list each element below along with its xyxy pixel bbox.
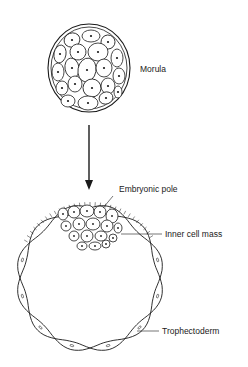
cell-nucleus — [57, 71, 59, 73]
hatch-line — [27, 236, 30, 238]
hatch-line — [119, 209, 121, 213]
hatch-line — [54, 211, 56, 215]
cell-nucleus — [100, 235, 102, 237]
cell-nucleus — [111, 215, 113, 217]
arrow-head-icon — [85, 180, 93, 190]
cell-nucleus — [71, 67, 73, 69]
cell-nucleus — [90, 35, 92, 37]
hatch-line — [45, 217, 47, 220]
hatch-line — [50, 214, 52, 217]
cell-nucleus — [106, 225, 108, 227]
hatch-line — [132, 217, 134, 220]
cell-nucleus — [118, 75, 120, 77]
morula-cells — [52, 30, 125, 110]
cell-nucleus — [73, 235, 75, 237]
cell-nucleus — [107, 41, 109, 43]
blastocyst — [18, 202, 163, 350]
morula — [48, 24, 130, 112]
trophectoderm-nucleus — [156, 258, 159, 262]
cell-nucleus — [86, 210, 88, 212]
trophectoderm-nucleus — [38, 325, 42, 329]
trophectoderm-nucleus — [106, 344, 110, 347]
cell-nucleus — [99, 211, 101, 213]
cell-nucleus — [65, 225, 67, 227]
cell-nucleus — [62, 213, 64, 215]
hatch-line — [150, 236, 153, 238]
cell-nucleus — [78, 223, 80, 225]
cell-nucleus — [71, 39, 73, 41]
cell-nucleus — [117, 91, 119, 93]
inner-cell-mass-label: Inner cell mass — [165, 229, 222, 239]
cell-nucleus — [107, 85, 109, 87]
cell-nucleus — [117, 227, 119, 229]
cell-nucleus — [73, 211, 75, 213]
cell-nucleus — [105, 243, 107, 245]
inner-cell-mass — [58, 205, 122, 250]
cell-nucleus — [77, 51, 79, 53]
cell-nucleus — [94, 245, 96, 247]
trophectoderm-nucleus — [21, 258, 24, 262]
hatch-line — [24, 240, 27, 242]
cell-nucleus — [81, 245, 83, 247]
cell-nucleus — [105, 97, 107, 99]
development-arrow — [85, 125, 93, 190]
cell-nucleus — [116, 57, 118, 59]
cell-nucleus — [59, 53, 61, 55]
trophectoderm-nucleus — [137, 325, 141, 329]
cell-nucleus — [86, 69, 88, 71]
cell-nucleus — [103, 67, 105, 69]
cell-nucleus — [86, 235, 88, 237]
trophectoderm-label: Trophectoderm — [162, 326, 219, 336]
cell-nucleus — [61, 87, 63, 89]
cell-nucleus — [67, 100, 69, 102]
morula-label: Morula — [140, 64, 166, 74]
trophectoderm-nucleus — [70, 344, 74, 347]
embryo-development-diagram: Morula Embryonic pole Inner cell mass Tr… — [0, 0, 248, 367]
cell-nucleus — [112, 237, 114, 239]
cell-nucleus — [97, 51, 99, 53]
embryonic-pole-label: Embryonic pole — [119, 184, 178, 194]
cell-nucleus — [92, 223, 94, 225]
cell-nucleus — [91, 87, 93, 89]
hatch-line — [124, 211, 126, 215]
cell-nucleus — [74, 83, 76, 85]
hatch-line — [128, 214, 130, 217]
trophectoderm-nucleus — [156, 294, 159, 298]
cell-nucleus — [87, 102, 89, 104]
trophectoderm-nucleus — [21, 294, 24, 298]
